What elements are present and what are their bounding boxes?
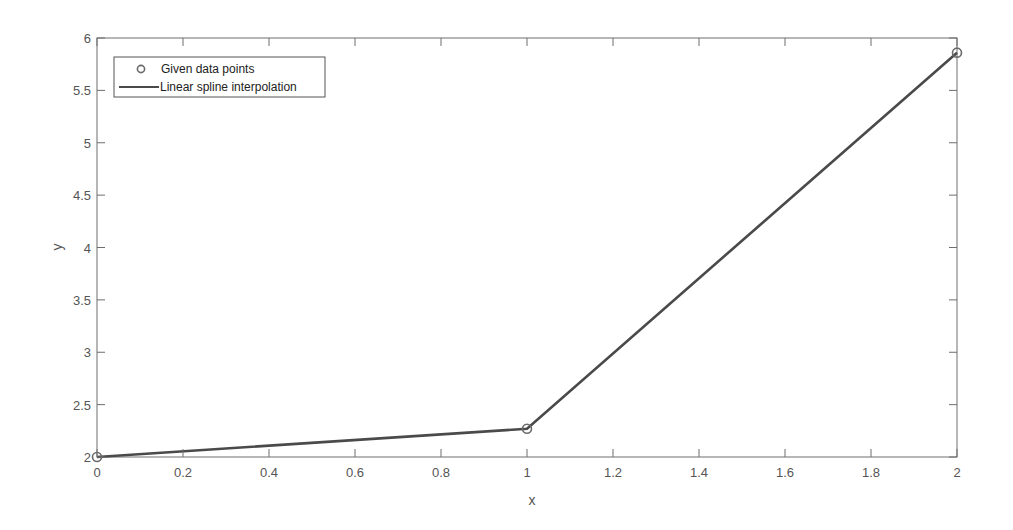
axes-box bbox=[97, 38, 957, 457]
x-tick-label: 1 bbox=[523, 465, 530, 480]
x-axis-label: x bbox=[529, 492, 536, 508]
legend-item-data-points: Given data points bbox=[161, 62, 254, 76]
y-axis-label: y bbox=[49, 244, 65, 251]
x-axis: 00.20.40.60.811.21.41.61.82 bbox=[93, 38, 960, 480]
plot-area bbox=[93, 38, 962, 462]
y-tick-label: 3 bbox=[84, 345, 91, 360]
y-tick-label: 2.5 bbox=[73, 398, 91, 413]
x-tick-label: 0.4 bbox=[260, 465, 278, 480]
y-tick-label: 4 bbox=[84, 241, 91, 256]
y-tick-label: 5 bbox=[84, 136, 91, 151]
legend: Given data points Linear spline interpol… bbox=[114, 57, 325, 97]
x-tick-label: 1.2 bbox=[604, 465, 622, 480]
x-tick-label: 1.8 bbox=[862, 465, 880, 480]
x-tick-label: 1.4 bbox=[690, 465, 708, 480]
x-tick-label: 1.6 bbox=[776, 465, 794, 480]
line-chart: 00.20.40.60.811.21.41.61.82 22.533.544.5… bbox=[0, 0, 1013, 530]
y-tick-label: 2 bbox=[84, 450, 91, 465]
y-tick-label: 5.5 bbox=[73, 83, 91, 98]
spline-line bbox=[97, 53, 957, 457]
x-tick-label: 2 bbox=[953, 465, 960, 480]
legend-item-linear-spline: Linear spline interpolation bbox=[160, 80, 297, 94]
y-tick-label: 3.5 bbox=[73, 293, 91, 308]
x-tick-label: 0.6 bbox=[346, 465, 364, 480]
y-tick-label: 4.5 bbox=[73, 188, 91, 203]
x-tick-label: 0.2 bbox=[174, 465, 192, 480]
x-tick-label: 0 bbox=[93, 465, 100, 480]
x-tick-label: 0.8 bbox=[432, 465, 450, 480]
y-tick-label: 6 bbox=[84, 31, 91, 46]
